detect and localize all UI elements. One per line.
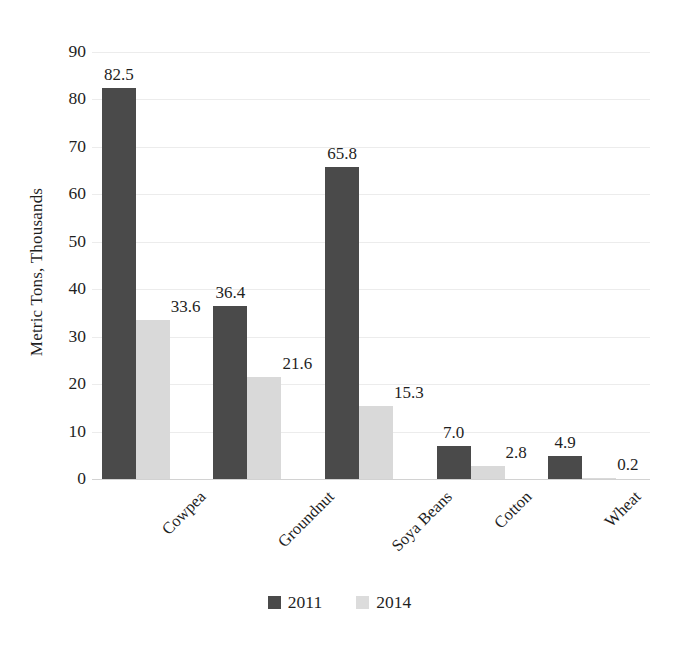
x-axis-category-label: Soya Beans [388, 487, 457, 556]
x-axis-category-label-text: Groundnut [274, 487, 339, 552]
y-axis-tick-label: 90 [46, 43, 86, 61]
bar-2014-cowpea [136, 320, 170, 479]
y-axis-tick-label: 50 [46, 233, 86, 251]
gridline [92, 337, 650, 338]
x-axis-category-label-text: Soya Beans [388, 487, 457, 556]
bar-value-label: 36.4 [209, 284, 251, 301]
bar-value-label: 0.2 [617, 456, 638, 473]
bar-2011-cotton [437, 446, 471, 479]
bar-value-label: 65.8 [321, 145, 363, 162]
gridline [92, 99, 650, 100]
bar-value-label: 2.8 [506, 444, 527, 461]
x-axis-category-label: Groundnut [274, 487, 339, 552]
legend-item-2014[interactable]: 2014 [356, 594, 411, 612]
y-axis-tick-label: 80 [46, 90, 86, 108]
x-axis-category-label: Wheat [601, 487, 646, 532]
legend-label: 2014 [376, 594, 411, 612]
bar-value-label: 33.6 [171, 298, 201, 315]
gridline [92, 147, 650, 148]
y-axis-tick-label: 20 [46, 375, 86, 393]
bar-value-label: 4.9 [544, 434, 586, 451]
bar-2011-cowpea [102, 88, 136, 479]
bar-2011-wheat [548, 456, 582, 479]
x-axis-category-label-text: Cowpea [158, 487, 210, 539]
plot-area: 82.533.636.421.665.815.37.02.84.90.2 [92, 52, 650, 479]
x-axis-category-label: Cotton [490, 487, 536, 533]
bar-2014-cotton [471, 466, 505, 479]
gridline [92, 194, 650, 195]
x-axis-category-label-text: Cotton [490, 487, 536, 533]
bar-2014-groundnut [247, 377, 281, 479]
gridline [92, 242, 650, 243]
bar-value-label: 15.3 [394, 384, 424, 401]
bar-value-label: 21.6 [282, 355, 312, 372]
y-axis-tick-labels: 9080706050403020100 [42, 52, 86, 479]
y-axis-tick-label: 0 [46, 470, 86, 488]
legend-swatch-icon [268, 596, 281, 609]
legend-label: 2011 [288, 594, 322, 612]
bar-value-label: 7.0 [433, 424, 475, 441]
y-axis-tick-label: 10 [46, 423, 86, 441]
chart-legend: 20112014 [0, 594, 679, 612]
y-axis-tick-label: 60 [46, 185, 86, 203]
bar-chart: Metric Tons, Thousands 90807060504030201… [0, 0, 679, 647]
y-axis-tick-label: 40 [46, 280, 86, 298]
y-axis-tick-label: 70 [46, 138, 86, 156]
gridline [92, 52, 650, 53]
bar-2011-groundnut [213, 306, 247, 479]
bar-2011-soya-beans [325, 167, 359, 479]
x-axis-category-labels: CowpeaGroundnutSoya BeansCottonWheat [92, 479, 650, 569]
gridline [92, 384, 650, 385]
gridline [92, 289, 650, 290]
bar-value-label: 82.5 [98, 66, 140, 83]
x-axis-category-label: Cowpea [158, 487, 210, 539]
y-axis-tick-label: 30 [46, 328, 86, 346]
legend-item-2011[interactable]: 2011 [268, 594, 322, 612]
x-axis-category-label-text: Wheat [601, 487, 646, 532]
legend-swatch-icon [356, 596, 369, 609]
bar-2014-soya-beans [359, 406, 393, 479]
